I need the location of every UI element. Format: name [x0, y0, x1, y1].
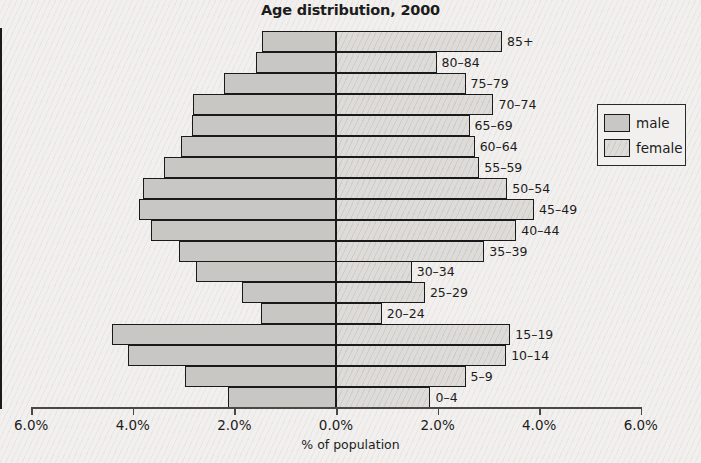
- bar-male: [261, 303, 336, 324]
- bar-category-label: 40–44: [521, 221, 559, 240]
- bar-male: [143, 178, 336, 199]
- bar-row: 85+: [0, 31, 701, 52]
- bar-category-label: 55–59: [484, 158, 522, 177]
- bar-category-label: 65–69: [475, 116, 513, 135]
- bar-male: [112, 324, 336, 345]
- zero-axis-line: [0, 28, 2, 409]
- bar-row: 60–64: [0, 136, 701, 157]
- bar-male: [224, 73, 336, 94]
- bar-female: [336, 387, 430, 408]
- bar-row: 45–49: [0, 199, 701, 220]
- bar-female: [336, 157, 479, 178]
- x-axis-tick-label: 0.0%: [304, 417, 368, 433]
- bar-female: [336, 115, 470, 136]
- bar-male: [179, 241, 336, 262]
- bar-female: [336, 199, 534, 220]
- x-axis-tick-label: 2.0%: [202, 417, 266, 433]
- bar-male: [256, 52, 336, 73]
- bar-category-label: 50–54: [512, 179, 550, 198]
- bar-category-label: 75–79: [471, 74, 509, 93]
- bar-male: [185, 366, 336, 387]
- x-axis-tick: [133, 407, 135, 415]
- bar-row: 20–24: [0, 303, 701, 324]
- bar-male: [128, 345, 336, 366]
- bar-male: [242, 282, 336, 303]
- bar-category-label: 70–74: [498, 95, 536, 114]
- x-axis-tick: [438, 407, 440, 415]
- bar-male: [228, 387, 336, 408]
- bar-female: [336, 261, 412, 282]
- bar-category-label: 20–24: [387, 304, 425, 323]
- plot-area: 85+80–8475–7970–7465–6960–6455–5950–5445…: [0, 28, 701, 408]
- bar-row: 80–84: [0, 52, 701, 73]
- bar-female: [336, 73, 466, 94]
- legend: male female: [597, 104, 686, 166]
- female-swatch-icon: [604, 139, 630, 157]
- x-axis-tick-label: 6.0%: [0, 417, 63, 433]
- bar-male: [181, 136, 336, 157]
- bar-category-label: 60–64: [480, 137, 518, 156]
- bar-male: [139, 199, 336, 220]
- x-axis-tick-label: 4.0%: [101, 417, 165, 433]
- bar-female: [336, 178, 507, 199]
- bar-male: [164, 157, 336, 178]
- bar-row: 40–44: [0, 220, 701, 241]
- x-axis-tick-label: 2.0%: [406, 417, 470, 433]
- bar-male: [262, 31, 336, 52]
- legend-label-male: male: [636, 112, 669, 134]
- bar-female: [336, 31, 502, 52]
- bar-male: [192, 115, 336, 136]
- bar-row: 65–69: [0, 115, 701, 136]
- male-swatch-icon: [604, 114, 630, 132]
- bar-category-label: 45–49: [539, 200, 577, 219]
- bar-category-label: 5–9: [471, 367, 493, 386]
- x-axis-tick: [234, 407, 236, 415]
- bar-row: 0–4: [0, 387, 701, 408]
- bar-row: 75–79: [0, 73, 701, 94]
- bar-female: [336, 136, 475, 157]
- legend-label-female: female: [636, 137, 683, 159]
- bar-category-label: 0–4: [435, 388, 457, 407]
- bar-row: 5–9: [0, 366, 701, 387]
- bar-female: [336, 366, 466, 387]
- bar-male: [196, 261, 336, 282]
- x-axis-tick: [539, 407, 541, 415]
- chart-title: Age distribution, 2000: [0, 2, 701, 18]
- x-axis-tick: [31, 407, 33, 415]
- bar-category-label: 85+: [507, 32, 533, 51]
- bar-row: 30–34: [0, 261, 701, 282]
- bar-row: 10–14: [0, 345, 701, 366]
- x-axis-title: % of population: [0, 437, 701, 452]
- population-pyramid-chart: Age distribution, 2000 85+80–8475–7970–7…: [0, 0, 701, 463]
- bar-female: [336, 324, 510, 345]
- bar-category-label: 10–14: [511, 346, 549, 365]
- bar-category-label: 25–29: [430, 283, 468, 302]
- x-axis-tick-label: 4.0%: [507, 417, 571, 433]
- bar-female: [336, 52, 437, 73]
- x-axis-tick: [336, 407, 338, 415]
- bar-female: [336, 94, 493, 115]
- bar-male: [193, 94, 336, 115]
- bar-category-label: 15–19: [515, 325, 553, 344]
- bar-female: [336, 345, 506, 366]
- bar-female: [336, 220, 516, 241]
- bar-female: [336, 303, 382, 324]
- bar-male: [151, 220, 336, 241]
- bar-female: [336, 282, 425, 303]
- x-axis-tick: [641, 407, 643, 415]
- x-axis-tick-label: 6.0%: [609, 417, 673, 433]
- bar-row: 50–54: [0, 178, 701, 199]
- bar-row: 70–74: [0, 94, 701, 115]
- bar-category-label: 35–39: [489, 242, 527, 261]
- bar-female: [336, 241, 484, 262]
- bar-row: 25–29: [0, 282, 701, 303]
- bar-row: 55–59: [0, 157, 701, 178]
- bar-row: 35–39: [0, 241, 701, 262]
- bar-category-label: 80–84: [442, 53, 480, 72]
- bar-row: 15–19: [0, 324, 701, 345]
- bar-category-label: 30–34: [417, 262, 455, 281]
